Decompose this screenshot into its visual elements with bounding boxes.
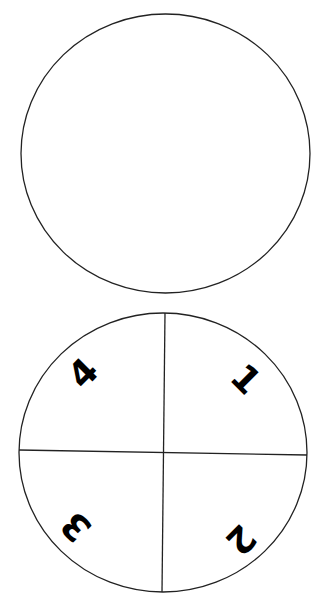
quadrant-circle: 1 2 3 4 xyxy=(19,313,307,592)
diagram-canvas: 1 2 3 4 xyxy=(0,0,317,602)
quadrant-number-2: 2 xyxy=(218,517,265,564)
quadrant-number-3: 3 xyxy=(53,504,100,551)
quadrant-number-1: 1 xyxy=(223,356,270,403)
blank-circle xyxy=(21,14,310,293)
quadrant-number-4: 4 xyxy=(60,350,107,397)
